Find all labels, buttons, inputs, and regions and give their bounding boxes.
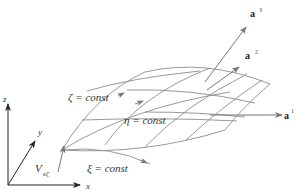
a2-label: a	[245, 50, 250, 61]
zeta-label: ζ = const	[68, 91, 110, 104]
vector-labels: a 3 a 2 a 1	[245, 7, 294, 121]
surface-grid	[62, 67, 270, 164]
a3-superscript: 3	[259, 7, 262, 13]
a2-superscript: 2	[255, 49, 258, 55]
zeta-arrow	[118, 93, 124, 96]
eta-label: η = const	[124, 114, 167, 126]
zeta-grid-line	[145, 74, 247, 147]
y-axis	[8, 141, 35, 185]
a1-superscript: 1	[291, 108, 294, 114]
curvilinear-surface-diagram: z x y a 3 a 2 a	[0, 0, 295, 192]
velocity-label: V	[35, 162, 43, 174]
right-edge	[225, 84, 270, 130]
zeta-curve-left-edge	[62, 72, 145, 150]
z-axis-label: z	[2, 94, 7, 104]
xi-arrow	[140, 160, 147, 163]
y-axis-label: y	[37, 127, 42, 137]
zeta-grid-line	[105, 68, 210, 145]
a3-label: a	[250, 8, 255, 19]
x-axis-label: x	[85, 181, 90, 191]
velocity-subscript: eζ	[43, 170, 50, 178]
near-edge	[62, 130, 225, 151]
xi-label: ξ = const	[87, 162, 129, 175]
eta-grid-line	[127, 90, 255, 103]
eta-arrow	[135, 101, 143, 104]
velocity-vector	[58, 146, 64, 172]
zeta-grid-line	[185, 80, 262, 141]
curve-arrows	[118, 93, 147, 163]
zeta-grid-line	[87, 71, 200, 91]
a1-label: a	[284, 110, 289, 121]
